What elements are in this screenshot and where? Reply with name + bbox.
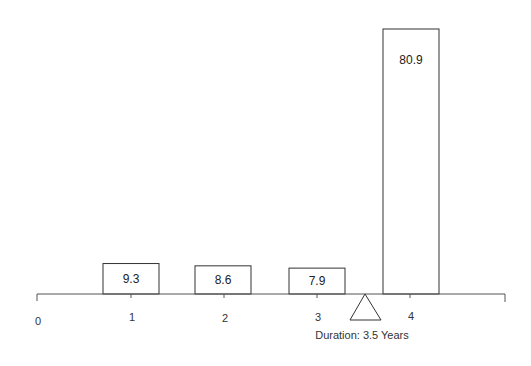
x-axis (37, 294, 505, 302)
bars: 9.38.67.980.9 (103, 29, 439, 294)
bar-value-label: 80.9 (399, 53, 423, 67)
duration-label: Duration: 3.5 Years (315, 329, 409, 341)
tick-label: 3 (315, 311, 321, 323)
bar-value-label: 8.6 (215, 273, 232, 287)
bar-value-label: 9.3 (123, 272, 140, 286)
duration-bar-chart: 9.38.67.980.9 01234 Duration: 3.5 Years (0, 0, 531, 366)
tick-label: 1 (129, 311, 135, 323)
bar-2: 8.6 (195, 266, 251, 294)
fulcrum-triangle-icon (350, 294, 381, 320)
duration-fulcrum: Duration: 3.5 Years (315, 294, 409, 341)
bar-1: 9.3 (103, 264, 159, 294)
tick-label: 2 (222, 312, 228, 324)
tick-label: 4 (408, 310, 414, 322)
bar-4: 80.9 (383, 29, 439, 294)
bar-value-label: 7.9 (309, 274, 326, 288)
tick-label: 0 (35, 315, 41, 327)
bar-3: 7.9 (289, 268, 345, 294)
